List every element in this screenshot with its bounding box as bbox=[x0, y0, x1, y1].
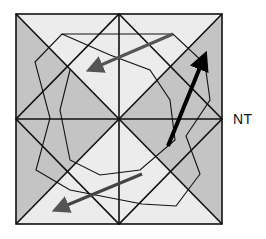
nt-label: NT bbox=[233, 111, 253, 127]
folding-diagram bbox=[0, 0, 266, 239]
grid-lines bbox=[16, 14, 222, 224]
